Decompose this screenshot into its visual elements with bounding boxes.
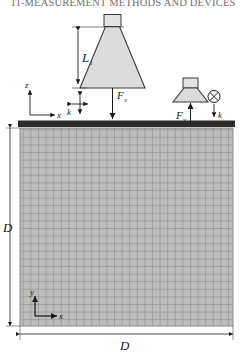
specimen-block — [20, 128, 233, 326]
force-x: Fx — [113, 88, 128, 119]
dimension-width-d: D — [20, 326, 233, 353]
axis-label-x-top: x — [56, 110, 61, 120]
axis-label-z-top: z — [24, 80, 29, 90]
figure-svg: L1 z x k Fx — [0, 0, 247, 354]
stiffness-left-label: k — [67, 107, 72, 117]
force-y-label: Fy — [175, 109, 186, 123]
figure-container: IT-MEASUREMENT METHODS AND DEVICES — [0, 0, 247, 354]
indenter-small — [173, 78, 208, 102]
axis-label-y-bottom: y — [29, 287, 34, 297]
width-label-d: D — [119, 338, 130, 353]
indenter-large-label: L1 — [81, 50, 93, 66]
stiffness-left: k — [67, 96, 88, 117]
stiffness-right: k — [208, 91, 223, 121]
axes-top: z x — [24, 80, 61, 120]
substrate-top-bar — [18, 121, 235, 128]
stiffness-right-label: k — [218, 110, 223, 120]
height-label-d: D — [2, 220, 13, 235]
axis-label-x-bottom: x — [58, 311, 63, 321]
force-x-label: Fx — [116, 89, 127, 103]
indenter-large — [80, 15, 145, 89]
circle-cross-icon — [208, 91, 220, 103]
dimension-height-d: D — [2, 128, 20, 326]
